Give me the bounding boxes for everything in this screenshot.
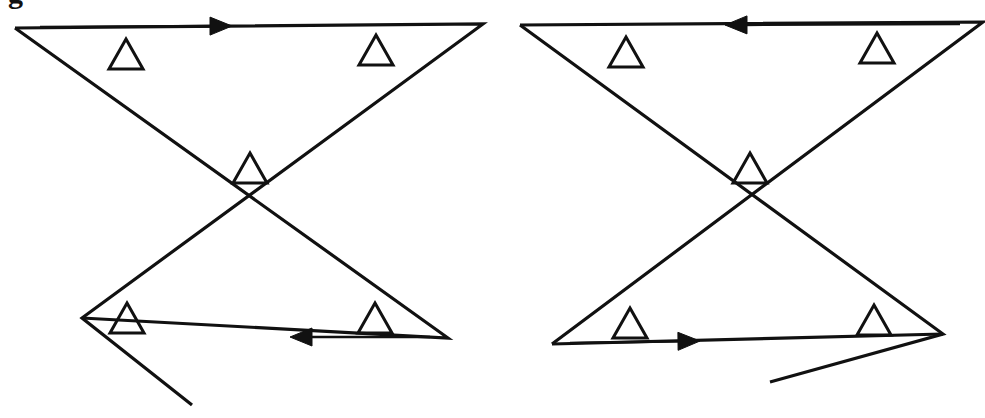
diagram-canvas [0, 0, 985, 418]
top-arrow-shaft [744, 24, 960, 25]
top-arrow [40, 17, 232, 35]
triangle-center [733, 153, 767, 183]
triangle-top-right [359, 35, 393, 65]
bottom-arrow [570, 332, 700, 350]
right-panel-path-2 [520, 25, 943, 382]
bottom-arrow-shaft [570, 341, 681, 343]
triangle-bottom-left [110, 303, 144, 333]
left-panel-path-1 [15, 24, 483, 405]
triangle-top-left [609, 37, 643, 67]
bottom-arrow-head [678, 332, 700, 350]
figure-container: g [0, 0, 985, 418]
top-arrow-head [725, 16, 747, 34]
right-panel [520, 16, 983, 382]
top-arrow [725, 16, 960, 34]
triangle-bottom-left [613, 308, 647, 338]
triangle-top-right [860, 33, 894, 63]
panels-layer [15, 16, 983, 405]
triangle-top-left [109, 39, 143, 69]
triangle-bottom-right [358, 303, 392, 333]
left-panel [15, 17, 483, 405]
top-arrow-head [210, 17, 232, 35]
triangle-bottom-right [857, 305, 891, 335]
triangle-center [233, 153, 267, 183]
top-arrow-shaft [40, 26, 213, 27]
